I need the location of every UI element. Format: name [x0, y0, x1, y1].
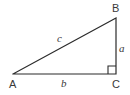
vertex-label-b: B	[112, 3, 119, 14]
triangle-outline-path	[13, 18, 116, 74]
vertex-label-c: C	[112, 79, 120, 90]
side-label-a: a	[119, 43, 125, 54]
side-label-b: b	[61, 78, 67, 89]
side-label-c: c	[57, 33, 62, 44]
right-triangle-figure: A B C a b c	[0, 0, 130, 95]
vertex-label-a: A	[9, 79, 16, 90]
right-angle-marker-icon	[108, 66, 116, 74]
